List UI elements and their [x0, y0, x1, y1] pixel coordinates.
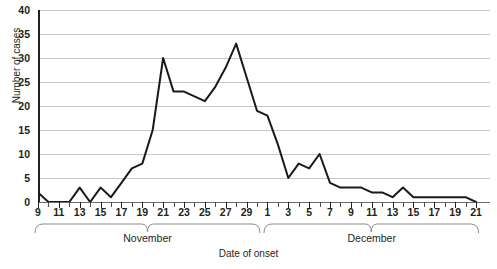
x-tick-label: 15 [408, 207, 420, 218]
x-tick-label: 17 [428, 207, 440, 218]
x-tick-label: 1 [265, 207, 271, 218]
epidemic-curve-chart: Number of cases 0510152025303540 9111315… [0, 0, 497, 269]
x-tick-label: 15 [95, 207, 107, 218]
x-tick-label: 19 [136, 207, 148, 218]
month-labels: NovemberDecember [0, 233, 497, 249]
x-tick-label: 29 [241, 207, 253, 218]
x-tick-label: 13 [74, 207, 86, 218]
x-tick-label: 11 [53, 207, 64, 218]
y-tick-label: 0 [4, 197, 30, 208]
month-label: December [347, 233, 395, 244]
plot-area [38, 10, 490, 202]
x-tick-label: 25 [199, 207, 211, 218]
x-axis-title: Date of onset [0, 248, 497, 259]
y-tick-label: 35 [4, 29, 30, 40]
x-tick-label: 5 [306, 207, 312, 218]
y-tick-label: 30 [4, 53, 30, 64]
x-tick-label: 13 [387, 207, 399, 218]
x-tick-label: 21 [470, 207, 482, 218]
x-tick-label: 23 [178, 207, 190, 218]
y-tick-label: 5 [4, 173, 30, 184]
x-tick-label: 7 [327, 207, 333, 218]
x-tick-label: 19 [449, 207, 461, 218]
x-tick-label: 11 [366, 207, 377, 218]
y-tick-label: 40 [4, 5, 30, 16]
x-tick-label: 27 [220, 207, 232, 218]
y-tick-label: 10 [4, 149, 30, 160]
x-tick-label: 9 [35, 207, 41, 218]
x-tick-label: 17 [116, 207, 128, 218]
x-axis-tick-labels: 91113151719212325272913579111315171921 [0, 207, 497, 221]
x-tick-label: 21 [157, 207, 169, 218]
month-label: November [123, 233, 171, 244]
y-tick-label: 15 [4, 125, 30, 136]
case-count-line [38, 10, 490, 202]
x-tick-label: 9 [348, 207, 354, 218]
y-tick-label: 20 [4, 101, 30, 112]
y-tick-label: 25 [4, 77, 30, 88]
x-tick-label: 3 [285, 207, 291, 218]
